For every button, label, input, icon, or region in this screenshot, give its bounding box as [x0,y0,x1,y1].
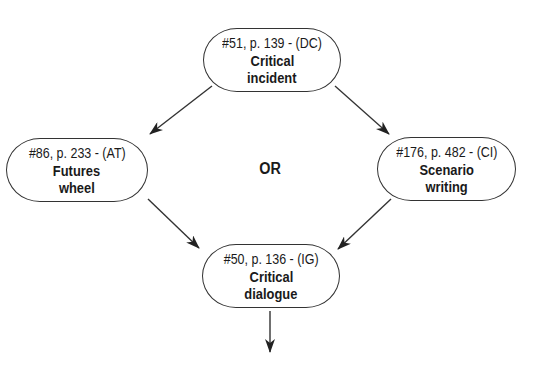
node-title-line2: dialogue [244,285,297,302]
node-title-line2: wheel [59,179,95,196]
node-title-line1: Scenario [419,161,474,178]
node-reference: #176, p. 482 - (CI) [396,144,497,161]
node-title-line2: writing [425,178,467,195]
node-critical-dialogue: #50, p. 136 - (IG) Critical dialogue [202,244,340,308]
node-reference: #86, p. 233 - (AT) [29,145,126,162]
node-reference: #50, p. 136 - (IG) [224,251,319,268]
arrow-right-to-bottom [338,199,391,249]
or-label: OR [252,160,288,178]
arrow-top-to-left [150,86,212,134]
node-title-line2: incident [247,69,296,86]
arrow-top-to-right [335,86,389,134]
node-scenario-writing: #176, p. 482 - (CI) Scenario writing [377,137,516,201]
node-title-line1: Critical [249,268,293,285]
node-title-line1: Critical [250,52,294,69]
node-futures-wheel: #86, p. 233 - (AT) Futures wheel [6,138,148,202]
node-reference: #51, p. 139 - (DC) [222,35,322,52]
node-critical-incident: #51, p. 139 - (DC) Critical incident [203,28,341,92]
arrow-left-to-bottom [148,199,199,248]
node-title-line1: Futures [53,162,100,179]
